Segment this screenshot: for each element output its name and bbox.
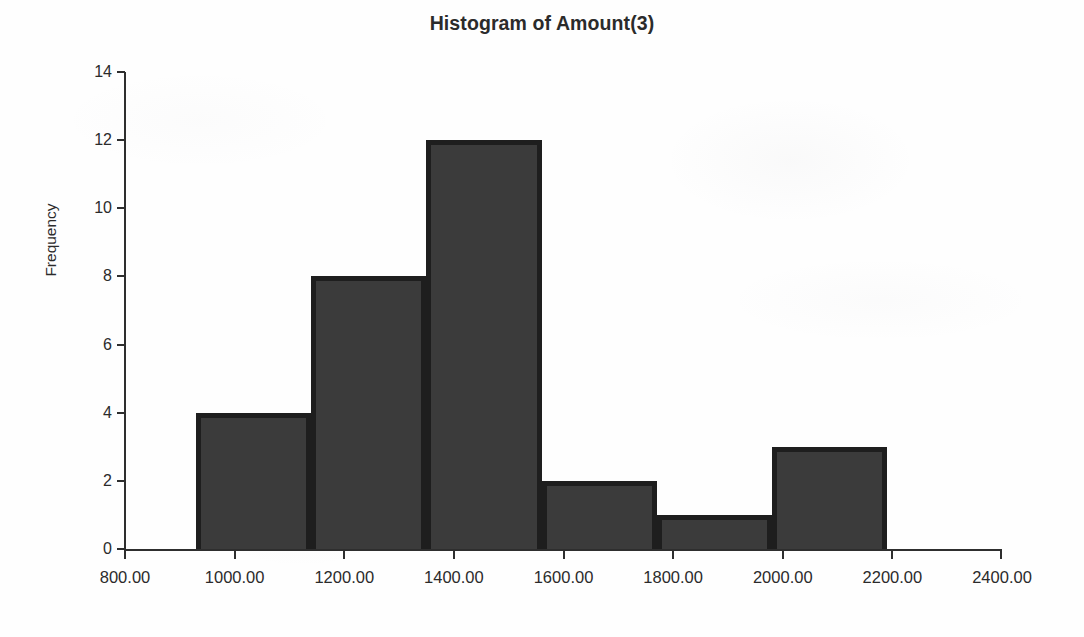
y-axis-tick-label: 4 [103,404,112,422]
y-axis-tick-label: 14 [94,63,112,81]
y-axis-tick [117,207,125,209]
y-axis-tick [117,71,125,73]
y-axis-tick-label: 6 [103,336,112,354]
x-axis-tick-label: 1400.00 [424,568,484,587]
x-axis-tick-label: 1800.00 [643,568,703,587]
y-axis-tick-label: 10 [94,199,112,217]
y-axis-line [124,72,126,550]
x-axis-tick-label: 2000.00 [753,568,813,587]
x-axis-tick [782,550,784,559]
x-axis-tick-label: 1200.00 [314,568,374,587]
y-axis-tick-label: 12 [94,131,112,149]
y-axis-tick [117,344,125,346]
y-axis-title: Frequency [42,203,60,276]
x-axis-tick [891,550,893,559]
x-axis-end-cap [1000,550,1002,559]
y-axis-tick [117,480,125,482]
histogram-bar [311,276,426,549]
x-axis-tick [563,550,565,559]
chart-title: Histogram of Amount(3) [0,12,1084,35]
x-axis-tick [234,550,236,559]
histogram-bar [772,447,887,549]
x-axis-tick-label: 1600.00 [534,568,594,587]
y-axis-tick-label: 0 [103,540,112,558]
y-axis-tick [117,412,125,414]
plot-area: 02468101214 800.001000.001200.001400.001… [125,72,1002,549]
histogram-bar [542,481,657,549]
x-axis-tick-label: 1000.00 [205,568,265,587]
x-axis-tick [453,550,455,559]
histogram-bar [196,413,311,549]
y-axis-tick [117,275,125,277]
x-axis-tick-label: 2400.00 [972,568,1032,587]
histogram-bar [426,140,541,549]
y-axis-tick-label: 2 [103,472,112,490]
y-axis-tick-label: 8 [103,267,112,285]
x-axis-tick [124,550,126,559]
histogram-bar [657,515,772,549]
y-axis-tick [117,139,125,141]
x-axis-tick [343,550,345,559]
x-axis-tick-label: 2200.00 [863,568,923,587]
x-axis-tick-label: 800.00 [100,568,150,587]
histogram-page: Histogram of Amount(3) Frequency 0246810… [0,0,1084,637]
x-axis-tick [672,550,674,559]
